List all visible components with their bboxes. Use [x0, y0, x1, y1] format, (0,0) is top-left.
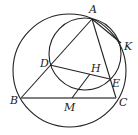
label-C: C: [119, 96, 128, 109]
label-K: K: [123, 40, 133, 53]
segment-MH: [72, 74, 90, 98]
label-M: M: [63, 101, 76, 114]
geometry-figure: A B C D E H M K: [0, 0, 138, 135]
segment-DE: [50, 65, 110, 79]
label-B: B: [9, 94, 18, 107]
label-A: A: [88, 3, 97, 16]
label-E: E: [111, 77, 120, 90]
label-D: D: [39, 57, 49, 70]
segment-AK: [92, 19, 121, 43]
diagram-canvas: A B C D E H M K: [0, 0, 138, 135]
label-H: H: [90, 62, 101, 75]
